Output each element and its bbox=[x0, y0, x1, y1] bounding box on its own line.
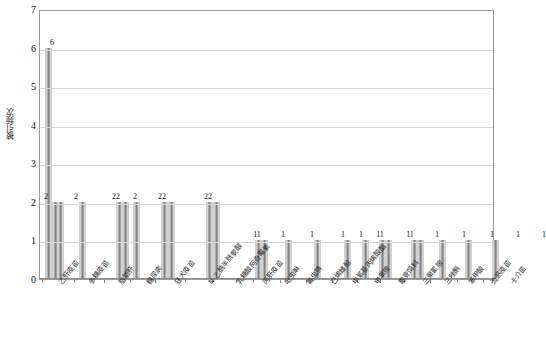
bar bbox=[45, 48, 52, 279]
bar-series: 6222222222111111111111111 bbox=[40, 11, 493, 279]
y-axis-tick-7: 7 bbox=[31, 4, 36, 15]
bar-value-label: 6 bbox=[50, 38, 54, 47]
bar-value-label: 11 bbox=[376, 230, 384, 239]
y-axis-tick-labels: 01234567 bbox=[20, 8, 36, 280]
y-axis-tick-6: 6 bbox=[31, 42, 36, 53]
y-axis-tick-4: 4 bbox=[31, 119, 36, 130]
x-axis-label-18: 卡介苗 bbox=[509, 264, 528, 285]
bar bbox=[465, 240, 472, 279]
bar-value-label: 11 bbox=[406, 230, 414, 239]
bar-value-label: 22 bbox=[112, 192, 120, 201]
bar-value-label: 1 bbox=[542, 230, 546, 239]
y-axis-tick-2: 2 bbox=[31, 196, 36, 207]
bar-value-label: 22 bbox=[158, 192, 166, 201]
bar-value-label: 2 bbox=[133, 192, 137, 201]
bar-value-label: 1 bbox=[490, 230, 494, 239]
x-axis-category-labels: 乙肝疫苗多糖疫苗脂肪肝糖尿病狂犬疫苗N-乙酰半胱氨酸乳糖酸阿奇霉素丙肝疫苗吡虫啉… bbox=[39, 281, 494, 343]
y-axis-tick-5: 5 bbox=[31, 81, 36, 92]
bar bbox=[79, 202, 86, 279]
bar bbox=[417, 240, 424, 279]
bar-value-label: 2 bbox=[74, 192, 78, 201]
bar-value-label: 2 bbox=[44, 192, 48, 201]
y-axis-title: 被引频次 bbox=[6, 108, 20, 140]
gridline bbox=[40, 88, 493, 89]
gridline bbox=[40, 204, 493, 205]
bar-value-label: 1 bbox=[359, 230, 363, 239]
bar-value-label: 1 bbox=[462, 230, 466, 239]
gridline bbox=[40, 165, 493, 166]
bar-value-label: 11 bbox=[253, 230, 261, 239]
bar-value-label: 1 bbox=[341, 230, 345, 239]
bar-value-label: 1 bbox=[310, 230, 314, 239]
gridline bbox=[40, 50, 493, 51]
y-axis-tick-0: 0 bbox=[31, 274, 36, 285]
bar bbox=[206, 202, 213, 279]
bar-value-label: 1 bbox=[281, 230, 285, 239]
bar-value-label: 1 bbox=[516, 230, 520, 239]
plot-area: 6222222222111111111111111 bbox=[39, 10, 494, 280]
bar-value-label: 1 bbox=[435, 230, 439, 239]
bar-value-label: 22 bbox=[204, 192, 212, 201]
gridline bbox=[40, 127, 493, 128]
bar bbox=[57, 202, 64, 279]
y-axis-tick-1: 1 bbox=[31, 235, 36, 246]
bar bbox=[168, 202, 175, 279]
y-axis-tick-3: 3 bbox=[31, 158, 36, 169]
